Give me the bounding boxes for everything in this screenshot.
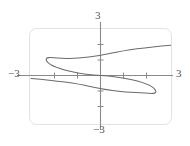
y-axis-max-label: 3 bbox=[95, 10, 101, 21]
x-axis-max-label: 3 bbox=[176, 68, 182, 79]
x-axis-min-label: −3 bbox=[8, 68, 20, 79]
y-axis-min-label: −3 bbox=[93, 124, 105, 135]
graph-screenshot: 3 −3 −3 3 bbox=[0, 0, 190, 146]
